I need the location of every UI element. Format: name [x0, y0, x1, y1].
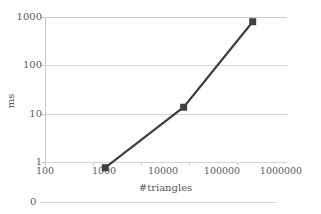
- y-tick-label-10: 10: [29, 109, 42, 119]
- secondary-axis-label: 0: [30, 197, 36, 207]
- secondary-axis-line: [45, 202, 276, 203]
- gridline-100: [46, 65, 287, 66]
- x-tick-label-100000: 100000: [204, 166, 240, 176]
- x-tick-label-100: 100: [36, 166, 54, 176]
- gridline-1000: [46, 17, 287, 18]
- gridline-1: [46, 162, 287, 163]
- log-log-line-chart: 1000 100 10 1 ms 100 1000 10000 100000 1…: [0, 0, 321, 214]
- plot-area: [45, 17, 286, 163]
- y-tick-label-100: 100: [23, 60, 42, 70]
- y-axis-title: ms: [6, 89, 16, 113]
- gridline-10: [46, 114, 287, 115]
- x-tick-label-1000000: 1000000: [260, 166, 302, 176]
- x-tick-label-1000: 1000: [92, 166, 116, 176]
- x-tick-mark-10000: [141, 163, 142, 166]
- x-tick-mark-100000: [189, 163, 190, 166]
- y-tick-label-1000: 1000: [17, 12, 42, 22]
- secondary-axis-tick: [41, 202, 45, 203]
- x-tick-label-10000: 10000: [148, 166, 178, 176]
- x-axis-title: #triangles: [45, 182, 286, 193]
